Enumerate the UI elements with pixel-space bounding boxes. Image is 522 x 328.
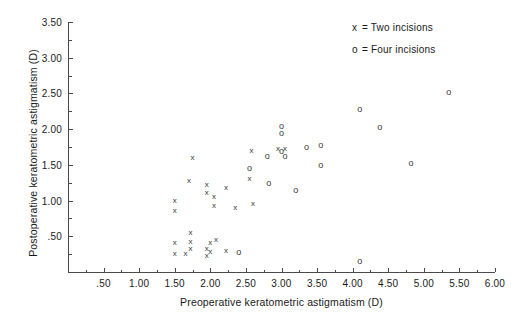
- legend-symbol-x: x: [352, 22, 362, 33]
- data-point-x: x: [171, 207, 179, 215]
- y-axis-major-tick: [69, 22, 73, 23]
- y-axis-minor-tick: [69, 111, 72, 112]
- data-point-o: o: [265, 179, 273, 187]
- x-axis-tick-label: 4.00: [343, 278, 363, 289]
- legend-entry-two-incisions: x= Two incisions: [352, 22, 436, 33]
- data-point-o: o: [376, 123, 384, 131]
- y-axis-minor-tick: [69, 76, 72, 77]
- legend-label-four-incisions: = Four incisions: [362, 44, 436, 55]
- x-axis-major-tick: [495, 268, 496, 272]
- y-axis-tick-label: 1.50: [42, 159, 62, 170]
- plot-data-area: xxxxxxxxxxxxxxxxxxxxxxxxxxxooooooooooooo…: [0, 0, 522, 328]
- y-axis-tick-label: .50: [47, 231, 62, 242]
- data-point-x: x: [248, 147, 256, 155]
- data-point-o: o: [281, 152, 289, 160]
- data-point-x: x: [231, 204, 239, 212]
- x-axis-tick-label: 3.50: [307, 278, 327, 289]
- legend-label-two-incisions: = Two incisions: [362, 22, 433, 33]
- data-point-x: x: [274, 145, 282, 153]
- data-point-x: x: [181, 250, 189, 258]
- x-axis-tick-label: 2.50: [236, 278, 256, 289]
- data-point-x: x: [171, 197, 179, 205]
- y-axis-minor-tick: [69, 254, 72, 255]
- x-axis-major-tick: [317, 268, 318, 272]
- data-point-o: o: [445, 88, 453, 96]
- x-axis-tick-label: 6.00: [485, 278, 505, 289]
- x-axis-minor-tick: [193, 270, 194, 273]
- data-point-x: x: [171, 250, 179, 258]
- data-point-x: x: [171, 239, 179, 247]
- data-point-o: o: [278, 129, 286, 137]
- x-axis-minor-tick: [264, 270, 265, 273]
- legend-entry-four-incisions: o= Four incisions: [352, 44, 436, 55]
- data-point-x: x: [222, 247, 230, 255]
- data-point-o: o: [263, 152, 271, 160]
- legend-symbol-o: o: [352, 44, 362, 55]
- y-axis-major-tick: [69, 165, 73, 166]
- x-axis-tick-label: 3.00: [271, 278, 291, 289]
- y-axis-tick-label: 2.50: [42, 88, 62, 99]
- data-point-x: x: [206, 248, 214, 256]
- data-point-x: x: [210, 202, 218, 210]
- y-axis-minor-tick: [69, 183, 72, 184]
- x-axis-minor-tick: [299, 270, 300, 273]
- y-axis-major-tick: [69, 58, 73, 59]
- data-point-x: x: [186, 245, 194, 253]
- x-axis-major-tick: [246, 268, 247, 272]
- x-axis-minor-tick: [370, 270, 371, 273]
- y-axis-minor-tick: [69, 40, 72, 41]
- x-axis-tick-label: 5.50: [449, 278, 469, 289]
- x-axis-minor-tick: [477, 270, 478, 273]
- x-axis-line: [68, 272, 495, 273]
- data-point-x: x: [249, 200, 257, 208]
- x-axis-tick-label: 1.50: [165, 278, 185, 289]
- scatter-plot-figure: .501.001.502.002.503.003.50 .501.001.502…: [0, 0, 522, 328]
- x-axis-tick-label: 1.00: [129, 278, 149, 289]
- x-axis-minor-tick: [406, 270, 407, 273]
- data-point-x: x: [185, 177, 193, 185]
- data-point-o: o: [407, 159, 415, 167]
- y-axis-tick-label: 3.50: [42, 17, 62, 28]
- data-point-o: o: [292, 186, 300, 194]
- x-axis-title: Preoperative keratometric astigmatism (D…: [68, 296, 495, 308]
- legend: x= Two incisions o= Four incisions: [352, 22, 436, 66]
- data-point-o: o: [356, 257, 364, 265]
- x-axis-major-tick: [175, 268, 176, 272]
- x-axis-tick-label: 2.00: [200, 278, 220, 289]
- x-axis-minor-tick: [121, 270, 122, 273]
- y-axis-minor-tick: [69, 147, 72, 148]
- x-axis-minor-tick: [442, 270, 443, 273]
- x-axis-major-tick: [459, 268, 460, 272]
- x-axis-tick-label: .50: [96, 278, 111, 289]
- x-axis-major-tick: [353, 268, 354, 272]
- x-axis-tick-label: 4.50: [378, 278, 398, 289]
- y-axis-tick-label: 3.00: [42, 52, 62, 63]
- x-axis-tick-label: 5.00: [414, 278, 434, 289]
- data-point-x: x: [203, 181, 211, 189]
- x-axis-major-tick: [210, 268, 211, 272]
- data-point-x: x: [206, 239, 214, 247]
- y-axis-title: Postoperative keratometric astigmatism (…: [27, 28, 39, 278]
- y-axis-tick-label: 1.00: [42, 195, 62, 206]
- data-point-o: o: [356, 105, 364, 113]
- x-axis-major-tick: [424, 268, 425, 272]
- data-point-x: x: [210, 193, 218, 201]
- data-point-o: o: [278, 122, 286, 130]
- data-point-x: x: [203, 252, 211, 260]
- data-point-x: x: [203, 189, 211, 197]
- y-axis-major-tick: [69, 236, 73, 237]
- x-axis-minor-tick: [335, 270, 336, 273]
- data-point-x: x: [186, 229, 194, 237]
- x-axis-minor-tick: [228, 270, 229, 273]
- x-axis-major-tick: [388, 268, 389, 272]
- x-axis-major-tick: [282, 268, 283, 272]
- x-axis-minor-tick: [157, 270, 158, 273]
- data-point-x: x: [222, 184, 230, 192]
- data-point-x: x: [203, 245, 211, 253]
- data-point-o: o: [302, 143, 310, 151]
- data-point-o: o: [245, 164, 253, 172]
- data-point-x: x: [212, 236, 220, 244]
- data-point-o: o: [317, 161, 325, 169]
- data-point-x: x: [186, 238, 194, 246]
- data-point-x: x: [281, 145, 289, 153]
